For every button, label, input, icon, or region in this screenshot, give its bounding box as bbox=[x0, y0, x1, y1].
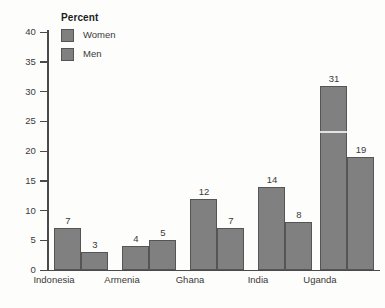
y-tick-15 bbox=[40, 180, 48, 181]
bar-value-india-men: 8 bbox=[282, 210, 316, 220]
bar-uganda-women[interactable] bbox=[320, 86, 347, 271]
legend-label-women: Women bbox=[83, 30, 116, 40]
bar-uganda-men[interactable] bbox=[347, 157, 374, 270]
y-tick-label-10: 10 bbox=[8, 206, 36, 216]
legend-item-women[interactable]: Women bbox=[61, 28, 116, 42]
legend-swatch-women-icon bbox=[61, 29, 74, 42]
y-tick-label-5: 5 bbox=[8, 235, 36, 245]
legend-item-men[interactable]: Men bbox=[61, 47, 116, 61]
bar-value-indonesia-men: 3 bbox=[78, 240, 112, 250]
y-tick-label-35: 35 bbox=[8, 57, 36, 67]
bar-armenia-women[interactable] bbox=[122, 246, 149, 270]
bar-group-ghana: 12 7 bbox=[190, 32, 244, 270]
x-label-uganda: Uganda bbox=[277, 274, 363, 285]
bar-value-ghana-men: 7 bbox=[214, 216, 248, 226]
legend-title: Percent bbox=[61, 12, 116, 24]
bar-indonesia-women[interactable] bbox=[54, 228, 81, 270]
bar-armenia-men[interactable] bbox=[149, 240, 176, 270]
bar-ghana-men[interactable] bbox=[217, 228, 244, 270]
y-tick-20 bbox=[40, 151, 48, 152]
legend-swatch-men-icon bbox=[61, 48, 74, 61]
y-tick-label-15: 15 bbox=[8, 176, 36, 186]
y-tick-label-25: 25 bbox=[8, 116, 36, 126]
y-tick-5 bbox=[40, 240, 48, 241]
legend: Percent Women Men bbox=[61, 12, 116, 66]
bar-value-armenia-men: 5 bbox=[146, 228, 180, 238]
bar-value-uganda-women: 31 bbox=[317, 74, 351, 84]
scan-artifact-streak bbox=[318, 131, 348, 133]
bar-value-india-women: 14 bbox=[255, 175, 289, 185]
bar-group-armenia: 4 5 bbox=[122, 32, 176, 270]
grouped-bar-chart: 40 35 30 25 20 15 10 5 0 7 3 4 5 bbox=[0, 0, 385, 308]
y-tick-25 bbox=[40, 121, 48, 122]
y-tick-label-20: 20 bbox=[8, 146, 36, 156]
y-tick-label-30: 30 bbox=[8, 87, 36, 97]
footer-scan-artifact bbox=[246, 299, 385, 308]
bar-india-men[interactable] bbox=[285, 222, 312, 270]
bar-india-women[interactable] bbox=[258, 187, 285, 270]
plot-area: 7 3 4 5 12 7 14 8 31 19 bbox=[48, 32, 380, 270]
bar-value-indonesia-women: 7 bbox=[51, 216, 85, 226]
y-tick-0 bbox=[40, 270, 48, 271]
bar-value-uganda-men: 19 bbox=[344, 145, 378, 155]
y-tick-30 bbox=[40, 91, 48, 92]
y-tick-label-40: 40 bbox=[8, 27, 36, 37]
y-tick-40 bbox=[40, 32, 48, 33]
bar-ghana-women[interactable] bbox=[190, 199, 217, 270]
y-tick-35 bbox=[40, 61, 48, 62]
bar-value-ghana-women: 12 bbox=[187, 187, 221, 197]
bar-indonesia-men[interactable] bbox=[81, 252, 108, 270]
bar-group-india: 14 8 bbox=[258, 32, 312, 270]
bar-group-uganda: 31 19 bbox=[320, 32, 374, 270]
bar-group-indonesia: 7 3 bbox=[54, 32, 108, 270]
legend-label-men: Men bbox=[83, 49, 101, 59]
y-tick-10 bbox=[40, 210, 48, 211]
